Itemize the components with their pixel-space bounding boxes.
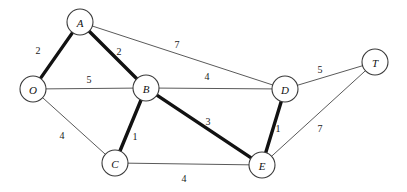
- edge-weight-b-c: 1: [133, 131, 138, 142]
- graph-edge-c-e: [128, 163, 249, 165]
- edge-weight-o-b: 5: [87, 74, 92, 85]
- graph-node-e[interactable]: E: [249, 152, 275, 178]
- graph-edge-o-b: [46, 88, 133, 89]
- graph-edge-b-c: [120, 100, 141, 151]
- graph-diagram-canvas: 227545413417 AOBDTCE: [0, 0, 407, 192]
- edge-weight-a-b: 2: [117, 46, 122, 57]
- graph-edge-o-a: [40, 33, 72, 79]
- graph-edge-b-e: [157, 95, 251, 158]
- graph-svg: 227545413417 AOBDTCE: [0, 0, 407, 192]
- node-label-c: C: [111, 158, 119, 170]
- edge-weight-b-e: 3: [206, 116, 211, 127]
- edge-weight-o-c: 4: [60, 130, 65, 141]
- node-label-d: D: [280, 84, 289, 96]
- node-label-e: E: [258, 160, 266, 172]
- graph-node-c[interactable]: C: [102, 150, 128, 176]
- graph-edge-b-d: [159, 88, 272, 89]
- graph-edge-o-c: [43, 98, 106, 155]
- edge-weight-b-d: 4: [205, 71, 210, 82]
- node-label-b: B: [143, 83, 150, 95]
- edge-weight-a-d: 7: [175, 39, 180, 50]
- node-label-a: A: [76, 17, 84, 29]
- edge-weight-o-a: 2: [36, 45, 41, 56]
- nodes-layer: AOBDTCE: [20, 9, 388, 178]
- edge-weight-d-e: 1: [276, 123, 281, 134]
- edges-layer: [40, 26, 365, 165]
- graph-node-d[interactable]: D: [272, 76, 298, 102]
- graph-node-a[interactable]: A: [67, 9, 93, 35]
- graph-node-o[interactable]: O: [20, 76, 46, 102]
- node-label-t: T: [372, 57, 379, 69]
- edge-weight-d-t: 5: [318, 64, 323, 75]
- graph-node-t[interactable]: T: [362, 49, 388, 75]
- graph-node-b[interactable]: B: [133, 75, 159, 101]
- edge-weight-e-t: 7: [318, 123, 323, 134]
- node-label-o: O: [29, 84, 37, 96]
- edge-weight-c-e: 4: [182, 173, 187, 184]
